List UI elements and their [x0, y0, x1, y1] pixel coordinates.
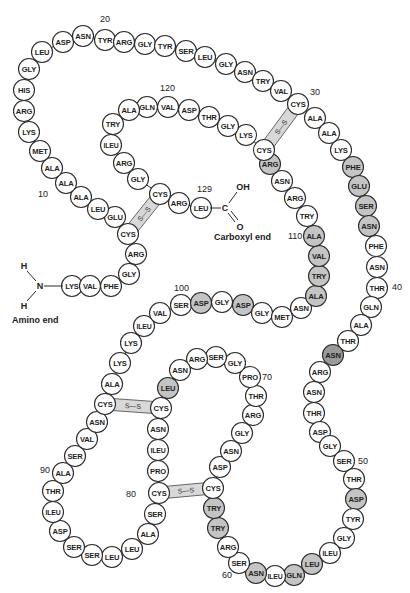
residue-label: ALA: [73, 193, 89, 202]
residue-label: GLN: [363, 303, 378, 312]
residue-37-asn: ASN: [359, 216, 380, 237]
residue-3-phe: PHE: [101, 276, 122, 297]
residue-84-leu: LEU: [102, 547, 123, 568]
lysozyme-sequence-diagram: S—SS—SS—SS—S LYSVALPHEGLYARGCYSGLULEUALA…: [0, 0, 410, 593]
residue-16-gly: GLY: [19, 59, 40, 80]
residue-label: ALA: [58, 179, 74, 188]
residue-22-gly: GLY: [135, 34, 156, 55]
residue-label: SER: [208, 353, 224, 362]
residue-label: ASP: [235, 301, 250, 310]
residue-label: MET: [32, 147, 48, 156]
residue-47-thr: THR: [304, 403, 325, 424]
residue-label: ASN: [361, 222, 376, 231]
residue-label: ALA: [140, 530, 156, 539]
residue-87-asp: ASP: [50, 521, 71, 542]
residue-label: LEU: [91, 205, 106, 214]
residue-label: ARG: [116, 159, 133, 168]
residue-39-asn: ASN: [367, 257, 388, 278]
amino-end-group: N H H Amino end: [12, 261, 63, 325]
residue-121-gln: GLN: [137, 97, 158, 118]
residue-label: CYS: [97, 400, 112, 409]
residue-57-gln: GLN: [284, 565, 305, 586]
residue-label: ARG: [171, 199, 188, 208]
residue-67-gly: GLY: [232, 423, 253, 444]
residue-label: ASN: [150, 425, 165, 434]
residue-23-tyr: TYR: [155, 36, 176, 57]
residue-104-gly: GLY: [252, 303, 273, 324]
residue-label: CYS: [153, 404, 168, 413]
residue-label: ASP: [193, 299, 208, 308]
residue-label: ASP: [348, 495, 363, 504]
position-number: 20: [100, 14, 110, 24]
residue-108-try: TRY: [309, 266, 330, 287]
residue-118-thr: THR: [199, 107, 220, 128]
residue-83-leu: LEU: [122, 539, 143, 560]
residue-36-ser: SER: [356, 196, 377, 217]
residue-label: PHE: [103, 282, 118, 291]
amino-end-label: Amino end: [12, 315, 59, 325]
position-number: 30: [310, 87, 320, 97]
residue-label: GLY: [131, 175, 145, 184]
position-number: 120: [160, 83, 175, 93]
residue-25-leu: LEU: [195, 47, 216, 68]
residue-label: MET: [274, 313, 290, 322]
residue-label: CYS: [120, 230, 135, 239]
carbon-atom: C: [222, 203, 229, 213]
residue-label: TRY: [106, 120, 120, 129]
residue-label: ALA: [353, 321, 369, 330]
disulfide-label: S—S: [125, 402, 142, 410]
carboxyl-end-group: C OH O Carboxyl end: [210, 182, 271, 242]
residue-111-try: TRY: [297, 206, 318, 227]
residue-label: ASN: [172, 366, 187, 375]
residue-109-val: VAL: [309, 246, 330, 267]
residue-6-cys: CYS: [118, 224, 139, 245]
residue-51-thr: THR: [344, 469, 365, 490]
residue-label: CYS: [290, 100, 305, 109]
residue-label: ILEU: [46, 508, 62, 517]
residue-label: ALA: [306, 232, 322, 241]
residue-label: ALA: [307, 114, 323, 123]
residue-label: GLY: [219, 60, 233, 69]
residue-71-gly: GLY: [225, 353, 246, 374]
position-number: 90: [40, 465, 50, 475]
residue-label: VAL: [83, 282, 98, 291]
residue-62-try: TRY: [208, 518, 229, 539]
residue-129-leu: LEU: [191, 198, 212, 219]
residue-18-asp: ASP: [53, 32, 74, 53]
residue-20-tyr: TYR: [95, 30, 116, 51]
residue-79-pro: PRO: [148, 461, 169, 482]
residue-label: CYS: [256, 146, 271, 155]
residue-34-phe: PHE: [343, 157, 364, 178]
residue-127-cys: CYS: [150, 184, 171, 205]
residue-label: ARG: [128, 250, 145, 259]
residue-80-cys: CYS: [149, 483, 170, 504]
residue-label: ASN: [237, 68, 252, 77]
residue-52-asp: ASP: [346, 489, 367, 510]
carboxyl-end-label: Carboxyl end: [214, 232, 271, 242]
residue-19-asn: ASN: [73, 26, 94, 47]
residue-label: ASP: [52, 527, 67, 536]
residue-14-arg: ARG: [14, 101, 35, 122]
residue-102-gly: GLY: [212, 292, 233, 313]
residue-63-try: TRY: [204, 498, 225, 519]
residue-label: ALA: [104, 380, 120, 389]
residue-label: TRY: [211, 524, 225, 533]
residue-45-arg: ARG: [310, 362, 331, 383]
nitrogen-atom: N: [37, 281, 44, 291]
residue-label: ILEU: [323, 549, 339, 558]
residue-label: THR: [45, 487, 61, 496]
residue-label: GLN: [139, 103, 154, 112]
residue-label: ALA: [321, 129, 337, 138]
residue-label: THR: [340, 337, 356, 346]
residue-label: ARG: [220, 543, 237, 552]
residue-label: LEU: [194, 204, 209, 213]
residue-label: LEU: [125, 545, 140, 554]
residue-label: ILEU: [268, 572, 284, 581]
residue-123-try: TRY: [103, 114, 124, 135]
residue-label: VAL: [153, 309, 168, 318]
residue-label: TYR: [98, 36, 113, 45]
residue-77-asn: ASN: [148, 419, 169, 440]
residue-label: ALA: [121, 106, 137, 115]
residue-76-cys: CYS: [151, 398, 172, 419]
residue-101-asp: ASP: [191, 293, 212, 314]
